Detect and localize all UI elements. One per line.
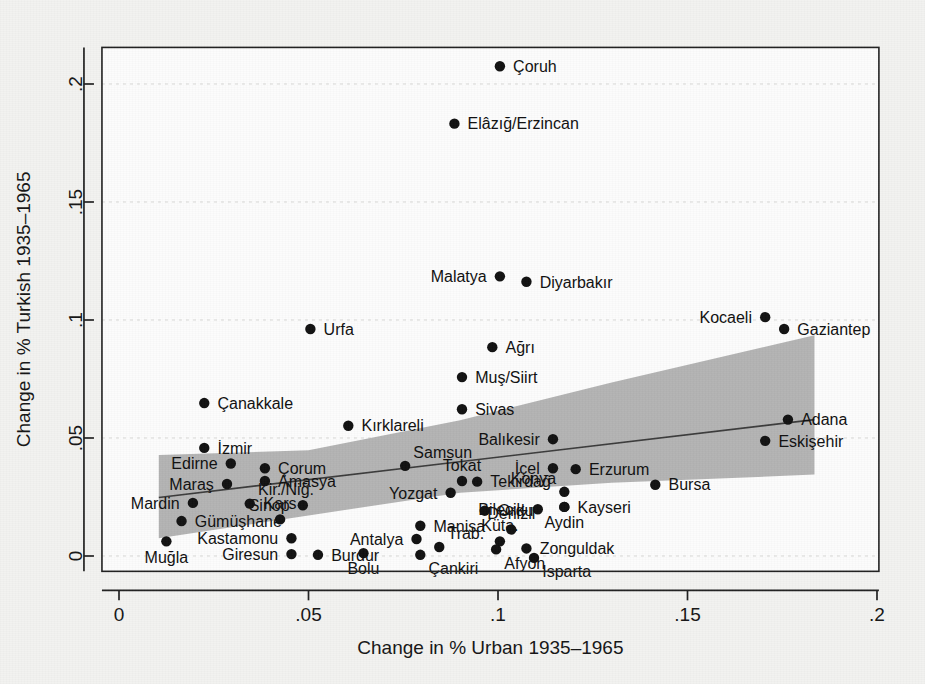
y-axis-title: Change in % Turkish 1935–1965 [13, 172, 34, 448]
data-point-label: Trab. [447, 525, 484, 542]
data-point-marker[interactable] [445, 488, 455, 498]
data-point-marker[interactable] [472, 476, 482, 486]
data-point-label: Kastamonu [197, 530, 278, 547]
data-point-label: Bursa [668, 476, 710, 493]
data-point-marker[interactable] [449, 118, 459, 128]
x-tick-label: .2 [869, 604, 885, 625]
data-point-marker[interactable] [495, 271, 505, 281]
data-point-marker[interactable] [650, 480, 660, 490]
data-point-label: Diyarbakır [540, 274, 614, 291]
data-point-marker[interactable] [434, 542, 444, 552]
data-point-label: Çoruh [513, 58, 557, 75]
data-point-marker[interactable] [487, 342, 497, 352]
data-point-marker[interactable] [411, 534, 421, 544]
data-point-label: Kocaeli [700, 309, 752, 326]
data-point-marker[interactable] [226, 458, 236, 468]
data-point-label: Mardin [131, 495, 180, 512]
y-tick-label: 0 [65, 551, 86, 562]
data-point-label: Aydin [544, 514, 584, 531]
scatter-plot-canvas: ÇoruhElâzığ/ErzincanMalatyaDiyarbakırKoc… [0, 0, 925, 684]
data-point-marker[interactable] [286, 549, 296, 559]
x-tick-label: .05 [295, 604, 321, 625]
data-point-marker[interactable] [760, 436, 770, 446]
data-point-marker[interactable] [559, 487, 569, 497]
data-point-marker[interactable] [783, 414, 793, 424]
data-point-label: Zonguldak [540, 540, 616, 557]
data-point-label: Çankiri [429, 560, 479, 577]
data-point-marker[interactable] [570, 464, 580, 474]
data-point-label: Gümüşhane [195, 513, 282, 530]
data-point-label: Çanakkale [217, 395, 293, 412]
data-point-marker[interactable] [400, 461, 410, 471]
y-tick-label: .15 [65, 189, 86, 215]
data-point-marker[interactable] [521, 277, 531, 287]
data-point-marker[interactable] [176, 516, 186, 526]
data-point-marker[interactable] [286, 533, 296, 543]
x-tick-label: 0 [114, 604, 125, 625]
data-point-label: Muğla [145, 549, 189, 566]
data-point-marker[interactable] [298, 500, 308, 510]
data-point-label: Balıkesir [478, 431, 540, 448]
data-point-marker[interactable] [260, 463, 270, 473]
data-point-marker[interactable] [457, 404, 467, 414]
data-point-label: Kars [264, 495, 297, 512]
data-point-label: Malatya [431, 268, 487, 285]
scatter-plot-figure: ÇoruhElâzığ/ErzincanMalatyaDiyarbakırKoc… [0, 0, 925, 684]
data-point-label: Bolu [347, 560, 379, 577]
data-point-marker[interactable] [760, 312, 770, 322]
data-point-label: Antalya [350, 531, 403, 548]
data-point-label: Yozgat [389, 485, 438, 502]
data-point-label: Afyon [504, 555, 545, 572]
data-point-marker[interactable] [457, 476, 467, 486]
data-point-marker[interactable] [305, 324, 315, 334]
data-point-marker[interactable] [343, 421, 353, 431]
data-point-label: Konya [511, 470, 556, 487]
x-axis-title: Change in % Urban 1935–1965 [357, 637, 623, 658]
data-point-label: İzmir [217, 439, 252, 457]
data-point-label: Adana [801, 411, 847, 428]
data-point-marker[interactable] [415, 550, 425, 560]
x-tick-label: .1 [490, 604, 506, 625]
data-point-marker[interactable] [457, 372, 467, 382]
data-point-marker[interactable] [222, 479, 232, 489]
data-point-marker[interactable] [415, 521, 425, 531]
data-point-marker[interactable] [199, 398, 209, 408]
data-point-marker[interactable] [495, 61, 505, 71]
data-point-marker[interactable] [161, 536, 171, 546]
data-point-label: Urfa [324, 321, 354, 338]
data-point-label: Kayseri [578, 499, 631, 516]
data-point-marker[interactable] [521, 543, 531, 553]
data-point-marker[interactable] [491, 544, 501, 554]
data-point-label: Eskişehir [778, 433, 844, 450]
y-tick-label: .1 [65, 312, 86, 328]
y-tick-label: .2 [65, 76, 86, 92]
data-point-label: Maraş [169, 476, 213, 493]
data-point-marker[interactable] [548, 434, 558, 444]
data-point-label: Muş/Siirt [475, 369, 538, 386]
data-point-label: Gaziantep [797, 321, 870, 338]
data-point-marker[interactable] [559, 502, 569, 512]
data-point-label: Edirne [171, 455, 217, 472]
data-point-marker[interactable] [779, 324, 789, 334]
data-point-label: Kırklareli [361, 417, 423, 434]
data-point-marker[interactable] [313, 550, 323, 560]
data-point-label: Giresun [222, 546, 278, 563]
data-point-marker[interactable] [188, 498, 198, 508]
x-tick-label: .15 [674, 604, 700, 625]
data-point-label: Küta. [481, 517, 518, 534]
data-point-marker[interactable] [199, 443, 209, 453]
data-point-label: Erzurum [589, 461, 649, 478]
data-point-label: Elâzığ/Erzincan [468, 115, 579, 132]
y-tick-label: .05 [65, 425, 86, 451]
data-point-label: Tokat [443, 457, 482, 474]
data-point-label: Ağrı [506, 339, 535, 356]
data-point-label: Sivas [475, 401, 514, 418]
